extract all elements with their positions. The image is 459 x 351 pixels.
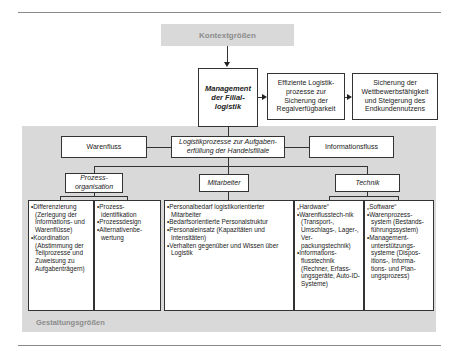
arrow-down-icon — [224, 62, 230, 67]
goods-flow-label: Warenfluss — [87, 143, 122, 152]
connector — [227, 46, 228, 63]
technology-box: Technik — [335, 174, 400, 192]
list-item: Bedarfsorientierte Personalstruktur — [167, 218, 291, 226]
list-item: Management-unterstützungs-systeme (Dispo… — [367, 234, 431, 280]
staff-label: Mitarbeiter — [207, 179, 240, 188]
list-item: Alternativenbe-wertung — [97, 226, 158, 241]
context-label: Kontextgrößen — [199, 31, 256, 40]
list-item: Personaleinsatz (Kapazitäten und Intensi… — [167, 226, 291, 241]
list-item: Personalbedarf logistikorientierter Mita… — [167, 203, 291, 218]
process-differentiation-list: Differenzierung (Zerlegung der Informati… — [28, 200, 94, 311]
hardware-list: „Hardware“ Warenflusstech-nik (Transport… — [294, 200, 364, 311]
logistics-processes-line: Logistikprozesse zur Aufgaben- — [179, 138, 277, 147]
technology-label: Technik — [356, 179, 380, 188]
management-box: Management der Filial- logistik — [198, 68, 258, 127]
management-line: der Filial- — [211, 93, 244, 102]
list-item: Differenzierung (Zerlegung der Informati… — [31, 203, 91, 234]
outcome-line: Sicherung der — [284, 97, 328, 106]
design-label: Gestaltungsgrößen — [36, 318, 105, 327]
staff-list: Personalbedarf logistikorientierter Mita… — [164, 200, 294, 311]
outcome-box-competitiveness: Sicherung der Wettbewerbsfähigkeit und S… — [352, 73, 438, 120]
connector — [329, 196, 399, 197]
outcome-box-efficiency: Effiziente Logistik- prozesse zur Sicher… — [267, 73, 345, 120]
connector — [228, 192, 229, 200]
list-item: Warenflusstech-nik (Transport-, Umschlag… — [297, 211, 361, 250]
outcome-line: und Steigerung des — [365, 97, 426, 106]
outcome-line: Effiziente Logistik- — [278, 79, 335, 88]
process-design-list: Prozess-identifikation Prozessdesign Alt… — [94, 200, 161, 311]
goods-flow-box: Warenfluss — [61, 136, 147, 158]
process-organisation-line: Prozess- — [80, 174, 108, 183]
connector — [94, 166, 95, 173]
connector — [60, 196, 128, 197]
outcome-line: Wettbewerbsfähigkeit — [362, 88, 429, 97]
connector — [147, 147, 171, 148]
list-item: Koordination (Abstimmung der Teilprozess… — [31, 234, 91, 273]
bottom-rule — [18, 345, 441, 346]
information-flow-box: Informationsfluss — [309, 136, 394, 158]
list-item: Prozessdesign — [97, 218, 158, 226]
list-item: Verhalten gegenüber und Wissen über Logi… — [167, 242, 291, 257]
connector — [367, 166, 368, 174]
management-line: logistik — [215, 102, 241, 111]
hardware-header: „Hardware“ — [297, 203, 361, 211]
connector — [228, 127, 229, 136]
context-band: Kontextgrößen — [161, 24, 294, 46]
process-organisation-line: organisation — [75, 183, 113, 192]
software-list: „Software“ Warenprozess-system (Bestands… — [364, 200, 434, 311]
information-flow-label: Informationsfluss — [325, 143, 378, 152]
top-rule — [18, 12, 441, 13]
list-item: Prozess-identifikation — [97, 203, 158, 218]
staff-box: Mitarbeiter — [199, 174, 249, 192]
outcome-line: Endkundennutzens — [365, 105, 425, 114]
logistics-processes-box: Logistikprozesse zur Aufgaben- erfüllung… — [171, 136, 285, 158]
outcome-line: Regalverfügbarkeit — [277, 105, 336, 114]
list-item: Warenprozess-system (Bestands-führungssy… — [367, 211, 431, 234]
logistics-processes-line: erfüllung der Handelsfiliale — [187, 147, 270, 156]
management-line: Management — [205, 84, 251, 93]
connector — [285, 147, 309, 148]
outcome-line: prozesse zur — [286, 88, 326, 97]
connector — [94, 166, 368, 167]
outcome-line: Sicherung der — [373, 79, 417, 88]
software-header: „Software“ — [367, 203, 431, 211]
list-item: Informations-flusstechnik (Rechner, Erfa… — [297, 249, 361, 288]
process-organisation-box: Prozess- organisation — [65, 173, 123, 193]
